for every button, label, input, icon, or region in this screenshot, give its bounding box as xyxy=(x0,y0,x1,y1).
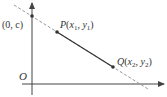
point-p-label: P(x1, y1) xyxy=(59,19,94,32)
coordinate-diagram: O (0, c) P(x1, y1) Q(x2, y2) xyxy=(0,0,167,97)
point-q-label: Q(x2, y2) xyxy=(117,56,152,69)
point-p xyxy=(55,30,59,34)
intercept-label: (0, c) xyxy=(2,19,23,31)
origin-label: O xyxy=(19,70,27,82)
point-q xyxy=(111,65,115,69)
segment-pq xyxy=(57,32,113,67)
intercept-point xyxy=(30,14,34,18)
